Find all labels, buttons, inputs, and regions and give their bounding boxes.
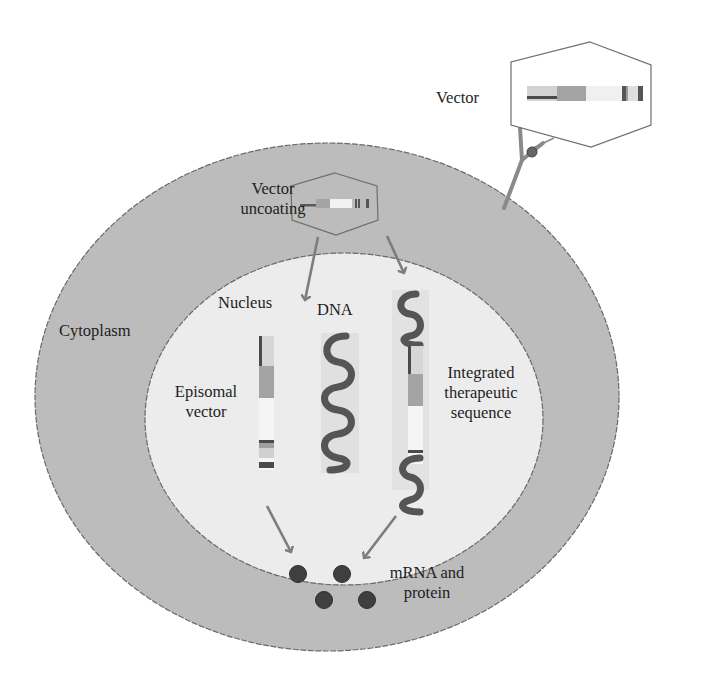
label-cytoplasm: Cytoplasm xyxy=(59,321,131,341)
ligand-tether xyxy=(533,138,554,148)
label-episomal-line2: vector xyxy=(165,402,247,422)
label-vector: Vector xyxy=(436,88,479,108)
ligand-icon xyxy=(527,147,537,157)
label-mrna-protein: mRNA and protein xyxy=(378,563,476,603)
label-integrated-sequence: Integrated therapeutic sequence xyxy=(430,363,532,423)
label-episomal-line1: Episomal xyxy=(165,382,247,402)
episomal-vector-icon xyxy=(259,336,274,470)
label-vector-uncoating-line2: uncoating xyxy=(236,199,310,219)
label-integrated-line1: Integrated xyxy=(430,363,532,383)
label-integrated-line3: sequence xyxy=(430,403,532,423)
label-dna: DNA xyxy=(317,300,353,320)
integrated-cassette-icon xyxy=(408,346,423,464)
label-mrna-line1: mRNA and xyxy=(378,563,476,583)
label-vector-uncoating-line1: Vector xyxy=(236,179,310,199)
label-episomal-vector: Episomal vector xyxy=(165,382,247,422)
label-nucleus: Nucleus xyxy=(218,293,272,313)
gene-therapy-diagram xyxy=(0,0,704,682)
label-integrated-line2: therapeutic xyxy=(430,383,532,403)
vector-cassette-icon xyxy=(527,86,643,101)
label-vector-uncoating: Vector uncoating xyxy=(236,179,310,219)
label-mrna-line2: protein xyxy=(378,583,476,603)
receptor-icon xyxy=(504,128,543,208)
